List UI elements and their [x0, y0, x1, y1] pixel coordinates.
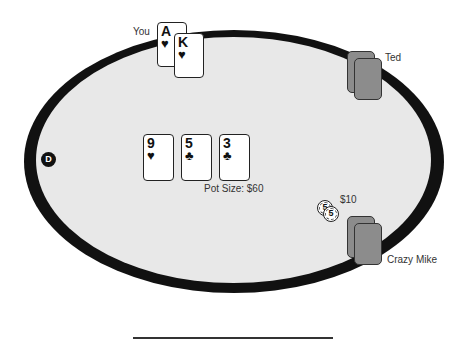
board-card-3: 3 ♣: [219, 134, 250, 181]
board-card-1: 9 ♥: [143, 134, 174, 181]
player-name-crazy-mike: Crazy Mike: [387, 255, 437, 265]
pot-size: Pot Size: $60: [204, 184, 263, 194]
answer-line: [133, 337, 333, 339]
heart-icon: ♥: [178, 48, 186, 61]
ted-card-back-2: [354, 58, 382, 100]
bet-amount: $10: [340, 195, 357, 205]
dealer-button: D: [41, 152, 56, 167]
player-name-you: You: [133, 27, 150, 37]
poker-chip-icon: 5: [323, 206, 339, 222]
club-icon: ♣: [185, 149, 194, 162]
board-card-2: 5 ♣: [181, 134, 212, 181]
hole-card-2: K ♥: [174, 33, 204, 78]
player-name-ted: Ted: [385, 53, 401, 63]
crazy-mike-card-back-2: [354, 223, 382, 265]
heart-icon: ♥: [147, 149, 155, 162]
heart-icon: ♥: [161, 37, 169, 50]
club-icon: ♣: [223, 149, 232, 162]
